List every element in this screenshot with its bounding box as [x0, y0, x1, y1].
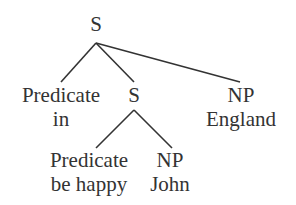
node-inner-s: S — [128, 83, 140, 107]
node-label: S — [128, 83, 140, 107]
node-label: Predicate — [22, 83, 100, 107]
node-np-england: NP England — [206, 83, 276, 131]
node-label: NP — [206, 83, 276, 107]
edge-root-to-predicate-in — [61, 43, 96, 82]
syntax-tree-diagram: S Predicate in S NP England Predicate be… — [0, 0, 296, 205]
node-word: in — [22, 107, 100, 131]
edge-inner-s-to-predicate-be-happy — [96, 110, 134, 148]
edge-root-to-np-england — [96, 43, 240, 82]
edge-inner-s-to-np-john — [134, 110, 172, 148]
node-np-john: NP John — [150, 148, 190, 196]
node-word: John — [150, 172, 190, 196]
node-root-s: S — [90, 12, 102, 36]
node-label: NP — [150, 148, 190, 172]
node-word: be happy — [50, 172, 128, 196]
node-word: England — [206, 107, 276, 131]
node-label: Predicate — [50, 148, 128, 172]
node-label: S — [90, 12, 102, 36]
node-predicate-be-happy: Predicate be happy — [50, 148, 128, 196]
node-predicate-in: Predicate in — [22, 83, 100, 131]
